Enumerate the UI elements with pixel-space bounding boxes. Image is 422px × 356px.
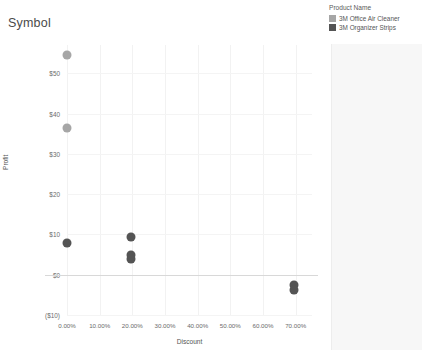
legend-item-list: 3M Office Air Cleaner3M Organizer Strips [326,15,421,31]
x-axis-tick-label: 10.00% [89,322,110,329]
x-axis-tick-labels: 0.00%10.00%20.00%30.00%40.00%50.00%60.00… [67,322,312,334]
legend-title: Product Name [329,4,421,11]
y-axis-tick-label: $10 [49,231,60,238]
legend-empty-panel [331,44,422,350]
x-axis-tick-label: 60.00% [253,322,274,329]
x-axis-tick-label: 0.00% [58,322,76,329]
y-axis-tick-label: $30 [49,150,60,157]
legend-box: Product Name 3M Office Air Cleaner3M Org… [326,4,421,33]
x-axis-tick-label: 20.00% [122,322,143,329]
zero-reference-line [45,275,318,276]
legend-color-swatch [329,24,336,31]
gridline-horizontal [67,234,312,235]
gridline-horizontal [67,73,312,74]
data-point[interactable] [126,233,135,242]
plot-area[interactable] [67,45,312,315]
legend-pane: Product Name 3M Office Air Cleaner3M Org… [326,0,421,356]
x-axis-title: Discount [67,338,312,345]
y-axis-title: Profit [2,155,9,170]
legend-color-swatch [329,15,336,22]
gridline-horizontal [67,154,312,155]
gridline-horizontal [67,114,312,115]
gridline-horizontal [67,194,312,195]
legend-item-label: 3M Organizer Strips [339,24,396,31]
data-point[interactable] [126,255,135,264]
x-axis-tick-label: 40.00% [187,322,208,329]
y-axis-tick-label: $50 [49,70,60,77]
data-point[interactable] [63,51,72,60]
data-point[interactable] [63,238,72,247]
data-point[interactable] [63,123,72,132]
legend-item[interactable]: 3M Organizer Strips [329,24,421,31]
x-axis-tick-label: 30.00% [155,322,176,329]
x-axis-tick-label: 50.00% [220,322,241,329]
x-axis-tick-label: 70.00% [285,322,306,329]
legend-item-label: 3M Office Air Cleaner [339,15,400,22]
gridline-horizontal [67,315,312,316]
data-point[interactable] [290,286,299,295]
y-axis-tick-label: $20 [49,191,60,198]
y-axis-tick-label: ($10) [45,312,60,319]
chart-title: Symbol [8,16,51,30]
chart-pane: Symbol Profit $50$40$30$20$10$0($10) 0.0… [0,0,320,356]
legend-item[interactable]: 3M Office Air Cleaner [329,15,421,22]
y-axis-tick-label: $40 [49,110,60,117]
